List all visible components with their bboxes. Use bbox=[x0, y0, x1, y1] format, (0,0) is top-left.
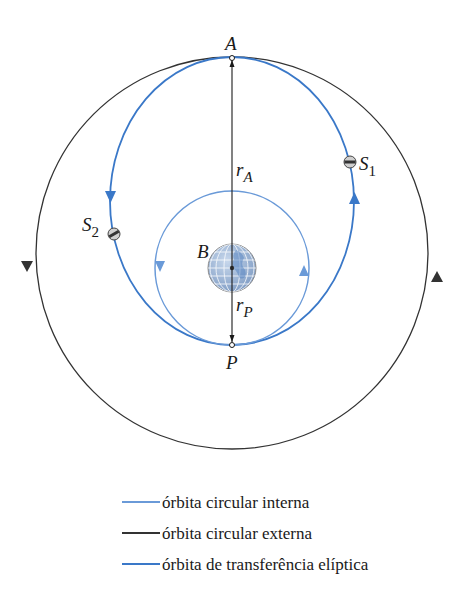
rA-arrowhead bbox=[230, 60, 235, 67]
rP-arrowhead bbox=[230, 335, 235, 342]
rP-label: rP bbox=[236, 294, 253, 320]
legend-item-inner-orbit: órbita circular interna bbox=[122, 493, 310, 512]
svg-text:órbita circular interna: órbita circular interna bbox=[162, 493, 310, 512]
svg-text:órbita circular externa: órbita circular externa bbox=[162, 524, 313, 543]
transfer-orbit-arrow-left bbox=[105, 191, 116, 203]
outer-orbit-arrow-left bbox=[21, 261, 33, 272]
apoapsis-point bbox=[230, 56, 235, 61]
rA-label: rA bbox=[236, 159, 253, 185]
legend-item-transfer-orbit: órbita de transferência elíptica bbox=[122, 555, 369, 574]
inner-orbit-arrow-right bbox=[299, 265, 309, 276]
legend: órbita circular interna órbita circular … bbox=[122, 493, 369, 574]
orbit-diagram: A P B rA rP S1 S2 órbita circular intern… bbox=[0, 0, 465, 605]
satellite-s1-icon bbox=[344, 156, 356, 168]
body-label: B bbox=[197, 241, 209, 262]
periapsis-point bbox=[230, 343, 235, 348]
periapsis-label: P bbox=[225, 352, 238, 373]
inner-orbit-arrow-left bbox=[155, 261, 165, 272]
transfer-orbit-arrow-right bbox=[349, 192, 360, 204]
apoapsis-label: A bbox=[223, 33, 237, 54]
satellite-s2-label: S2 bbox=[82, 214, 99, 240]
satellite-s1-label: S1 bbox=[359, 153, 376, 179]
svg-text:órbita de transferência elípti: órbita de transferência elíptica bbox=[162, 555, 369, 574]
satellite-s2-icon bbox=[108, 228, 120, 240]
legend-item-outer-orbit: órbita circular externa bbox=[122, 524, 313, 543]
outer-orbit-arrow-right bbox=[431, 271, 443, 282]
